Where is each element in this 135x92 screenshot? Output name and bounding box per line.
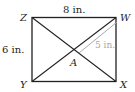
vertex-z-label: Z (19, 12, 28, 23)
rectangle-diagram: Z W Y X A 8 in. 6 in. 5 in. (0, 0, 135, 92)
vertex-x-label: X (119, 79, 128, 90)
vertex-w-label: W (120, 12, 131, 23)
vertex-y-label: Y (20, 79, 28, 90)
top-side-label: 8 in. (63, 4, 85, 15)
left-side-label: 6 in. (2, 44, 24, 55)
half-diagonal-label: 5 in. (95, 40, 115, 50)
vertex-a-label: A (69, 57, 77, 68)
